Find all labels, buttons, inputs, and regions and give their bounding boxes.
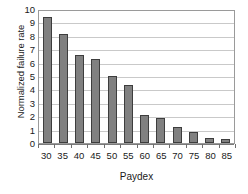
y-axis-tick-label: 1 [16,126,35,136]
bar-slot [72,11,88,143]
bar[interactable] [75,55,84,143]
x-axis-tick-label: 30 [38,149,54,162]
x-axis-tick-labels: 303540455055606570758085 [38,149,235,162]
bar[interactable] [156,118,165,143]
y-axis-tick-label: 7 [16,45,35,55]
bar-slot [120,11,136,143]
x-axis-tick-mark [54,144,55,148]
bar[interactable] [124,85,133,143]
bar-slot [104,11,120,143]
x-axis-tick-mark [186,144,187,148]
y-axis-tick-label: 4 [16,86,35,96]
x-axis-tick-marks [38,144,235,148]
bar[interactable] [91,59,100,143]
bar[interactable] [140,115,149,143]
x-axis-tick-label: 45 [87,149,103,162]
x-axis-tick-label: 80 [202,149,218,162]
x-axis-tick-label: 85 [219,149,235,162]
bar-slot [185,11,201,143]
bar[interactable] [108,76,117,143]
x-axis-tick-mark [169,144,170,148]
y-axis-tick-label: 10 [16,5,35,15]
bar[interactable] [221,139,230,143]
x-axis-tick-mark [202,144,203,148]
y-axis-tick-label: 8 [16,32,35,42]
y-axis-tick-label: 6 [16,59,35,69]
y-axis-tick-label: 9 [16,19,35,29]
x-axis-tick-label: 60 [137,149,153,162]
bar-chart: Normalized failure rate 012345678910 303… [0,0,248,194]
x-axis-tick-mark [104,144,105,148]
y-axis-tick-label: 3 [16,99,35,109]
x-axis-tick-label: 65 [153,149,169,162]
x-axis-tick-mark [120,144,121,148]
bar-slot [202,11,218,143]
bar-slot [88,11,104,143]
y-axis-tick-label: 0 [16,139,35,149]
bar-slot [137,11,153,143]
x-axis-tick-mark [219,144,220,148]
bar[interactable] [173,127,182,143]
x-axis-tick-mark [235,144,236,148]
bar[interactable] [205,138,214,143]
bar[interactable] [43,17,52,143]
x-axis-tick-label: 70 [169,149,185,162]
bar-slot [55,11,71,143]
bar[interactable] [189,132,198,143]
x-axis-tick-label: 50 [104,149,120,162]
bar-slot [169,11,185,143]
x-axis-tick-label: 40 [71,149,87,162]
y-axis-tick-label: 2 [16,112,35,122]
y-axis-tick-label: 5 [16,72,35,82]
x-axis-tick-label: 55 [120,149,136,162]
bar[interactable] [59,34,68,143]
x-axis-tick-mark [71,144,72,148]
bar-slot [218,11,234,143]
x-axis-tick-mark [153,144,154,148]
x-axis-tick-mark [87,144,88,148]
x-axis-tick-mark [137,144,138,148]
x-axis-tick-label: 75 [186,149,202,162]
x-axis-tick-mark [38,144,39,148]
x-axis-tick-label: 35 [54,149,70,162]
plot-area [38,10,235,144]
bar-slot [39,11,55,143]
x-axis-title: Paydex [38,170,235,183]
y-axis-tick-labels: 012345678910 [16,10,35,144]
bars-layer [39,11,234,143]
bar-slot [153,11,169,143]
